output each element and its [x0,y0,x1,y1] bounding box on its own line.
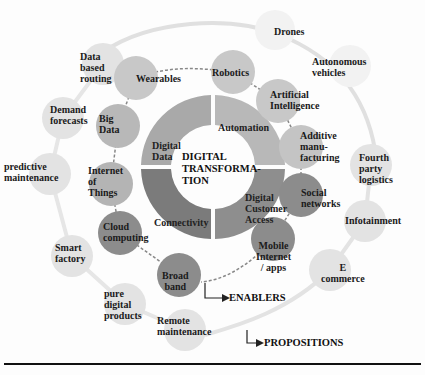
proposition-predictive-maintenance: predictivemaintenance [4,161,58,183]
proposition-data-based-routing: Databasedrouting [80,51,112,84]
proposition-smart-factory: Smartfactory [55,242,86,264]
proposition-pure-digital-products: puredigitalproducts [104,288,142,321]
enabler-social-networks: Socialnetworks [301,187,340,209]
enabler-cloud-computing: Cloudcomputing [103,221,149,243]
enabler-big-data: BigData [99,113,120,135]
proposition-e-commerce: Ecommerce [321,262,365,284]
enabler-additive-manufacturing: Additivemanu-facturing [300,130,339,163]
center-title: DIGITAL TRANSFORMA- TION [182,151,261,187]
segment-label-digital-customer-access: DigitalCustomerAccess [245,192,287,225]
proposition-demand-forecasts: Demandforecasts [50,104,88,126]
center-title-line: TION [182,175,261,187]
enabler-artificial-intelligence: ArtificialIntelligence [270,89,319,111]
center-title-line: DIGITAL [182,151,261,163]
proposition-fourth-party-logistics: Fourthpartylogistics [359,152,393,185]
segment-label-digital-data: DigitalData [152,140,181,162]
enabler-broadband: Broadband [162,270,189,292]
segment-label-automation: Automation [218,122,269,133]
enabler-wearables: Wearables [136,73,181,84]
legend-propositions: PROPOSITIONS [264,337,343,348]
digital-transformation-diagram: DIGITAL TRANSFORMA- TION DigitalData Aut… [0,0,425,375]
propositions-arrowhead-icon [256,339,264,347]
bottom-rule [4,363,421,365]
segment-label-connectivity: Connectivity [154,217,208,228]
proposition-autonomous-vehicles: Autonomousvehicles [312,56,366,78]
enabler-robotics: Robotics [212,67,249,78]
proposition-infotainment: Infotainment [345,215,401,226]
enabler-mobile-internet-apps: MobileInternet/ apps [256,240,291,273]
center-title-line: TRANSFORMA- [182,163,261,175]
proposition-remote-maintenance: Remotemaintenance [157,315,211,337]
legend-enablers: ENABLERS [229,292,286,303]
enabler-internet-of-things: InternetofThings [88,165,123,198]
proposition-drones: Drones [274,26,304,37]
